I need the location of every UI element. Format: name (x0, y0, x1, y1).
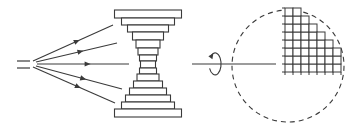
grid-cell (325, 48, 333, 56)
stack-layer (141, 61, 156, 68)
diagram-canvas (0, 0, 356, 127)
grid-cell (301, 40, 309, 48)
grid-cell (285, 32, 293, 40)
grid-cell (301, 24, 309, 32)
grid-cell (309, 32, 317, 40)
stack-layer (128, 25, 169, 32)
ray-line (36, 43, 117, 62)
grid-cell (309, 56, 317, 64)
grid-cell (317, 48, 325, 56)
grid-cell (309, 48, 317, 56)
grid-cell (285, 40, 293, 48)
stack-layer (133, 32, 164, 40)
grid-cell (333, 56, 341, 64)
stack-layer (134, 81, 163, 88)
stack-layer (140, 68, 157, 74)
quadrant-pixel-grid (282, 8, 341, 75)
grid-cell (317, 40, 325, 48)
grid-cell (285, 16, 293, 24)
beam-source-lines (17, 61, 30, 68)
grid-cell (325, 64, 333, 72)
stack-layer (115, 10, 182, 18)
grid-cell (317, 64, 325, 72)
grid-cell (325, 40, 333, 48)
stack-layer (137, 74, 159, 81)
grid-cell (293, 32, 301, 40)
grid-cell (301, 64, 309, 72)
grid-cell (285, 8, 293, 16)
stack-layer (140, 55, 157, 61)
stack-layer (130, 88, 167, 95)
grid-cell (293, 56, 301, 64)
grid-cell (333, 48, 341, 56)
grid-cell (285, 48, 293, 56)
ray-line (36, 66, 122, 89)
arrowhead-icon (85, 61, 91, 66)
grid-cell (293, 24, 301, 32)
rotation-arrow-icon (192, 53, 276, 75)
grid-cell (293, 16, 301, 24)
stack-layer (115, 109, 182, 117)
grid-cell (293, 48, 301, 56)
grid-cell (333, 64, 341, 72)
grid-cell (309, 24, 317, 32)
stack-layer (138, 48, 158, 55)
stack-layer (122, 18, 175, 25)
grid-cell (285, 24, 293, 32)
grid-cell (285, 56, 293, 64)
grid-cell (301, 56, 309, 64)
grid-cell (309, 64, 317, 72)
grid-cell (293, 64, 301, 72)
arrowhead-icon (77, 50, 83, 55)
ray-line (33, 25, 113, 61)
grid-cell (309, 40, 317, 48)
grid-cell (293, 40, 301, 48)
stack-layer (122, 102, 175, 109)
grid-cell (317, 56, 325, 64)
optics-diagram (0, 0, 356, 127)
stack-layer (136, 40, 160, 48)
rotation-arrowhead-icon (208, 53, 213, 59)
grid-cell (301, 32, 309, 40)
grid-cell (301, 16, 309, 24)
grid-cell (301, 48, 309, 56)
fan-rays-with-arrows (33, 25, 129, 103)
grid-cell (325, 56, 333, 64)
grid-cell (317, 32, 325, 40)
stack-layer (126, 95, 171, 102)
grid-cell (293, 8, 301, 16)
grid-cell (285, 64, 293, 72)
ray-line (33, 67, 115, 103)
